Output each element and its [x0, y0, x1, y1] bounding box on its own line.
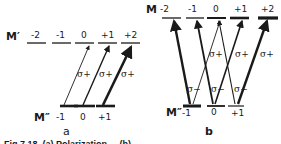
- panel-b-sigma-label: σ+: [260, 49, 274, 59]
- panel-b: M -2 -1 0 +1 +2 σ− σ− σ: [146, 3, 278, 138]
- panel-b-sigma-label: σ+: [209, 49, 223, 59]
- panel-b-lower-level-label: +1: [231, 108, 244, 118]
- figure-caption: Fig.7.18. (a) Polarization ... (b) ...: [4, 139, 141, 144]
- panel-a-lower-level-label: -1: [56, 112, 65, 122]
- panel-a-caption: a: [63, 125, 70, 138]
- panel-a-upper-level-label: 0: [81, 30, 87, 40]
- panel-b-upper-level-label: -1: [188, 4, 197, 14]
- panel-b-lower-level-label: 0: [211, 107, 217, 117]
- panel-a: M′ -2 -1 0 +1 +2 σ+ σ+ σ+ M″ -1 0 +1: [6, 30, 140, 138]
- panel-a-sigma-label: σ+: [99, 69, 113, 79]
- panel-a-upper-level-label: -2: [31, 30, 40, 40]
- panel-b-sigma-label: σ+: [235, 49, 249, 59]
- panel-a-upper-level-label: -1: [56, 30, 65, 40]
- panel-b-upper-level-label: +2: [261, 4, 274, 14]
- panel-a-upper-level-label: +1: [101, 30, 114, 40]
- zeeman-transition-diagram: M′ -2 -1 0 +1 +2 σ+ σ+ σ+ M″ -1 0 +1: [0, 0, 281, 144]
- panel-b-sigma-label: σ−: [234, 84, 248, 94]
- panel-b-upper-level-label: +1: [234, 4, 247, 14]
- panel-a-lower-level-label: +1: [98, 112, 111, 122]
- panel-a-lower-label: M″: [34, 111, 50, 124]
- panel-a-upper-label: M′: [6, 30, 20, 43]
- panel-b-caption: b: [205, 125, 213, 138]
- panel-b-upper-level-label: -2: [160, 4, 169, 14]
- panel-b-lower-label: M″: [166, 106, 182, 119]
- panel-a-sigma-label: σ+: [77, 69, 91, 79]
- panel-b-lower-level-label: -1: [182, 108, 191, 118]
- panel-a-lower-level-label: 0: [80, 112, 86, 122]
- panel-b-sigma-label: σ−: [211, 84, 225, 94]
- panel-a-upper-level-label: +2: [124, 30, 137, 40]
- panel-b-upper-label: M: [146, 3, 157, 16]
- panel-b-sigma-label: σ−: [187, 84, 201, 94]
- panel-a-sigma-label: σ+: [121, 69, 135, 79]
- panel-b-upper-level-label: 0: [213, 4, 219, 14]
